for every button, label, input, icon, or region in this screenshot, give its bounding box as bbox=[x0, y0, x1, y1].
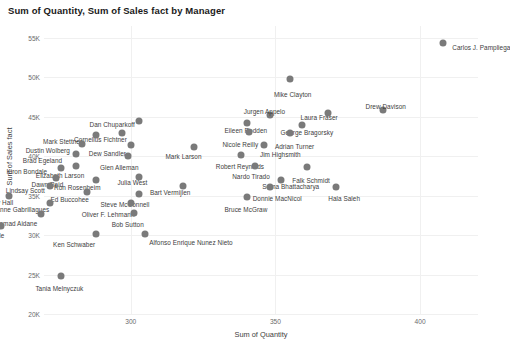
data-point[interactable] bbox=[130, 210, 137, 217]
data-point-label: Tania Melnyczuk bbox=[35, 286, 83, 292]
gridline-horizontal bbox=[44, 117, 478, 118]
x-axis-tick-label: 300 bbox=[125, 318, 136, 325]
data-point[interactable] bbox=[127, 142, 134, 149]
y-axis-tick-label: 30K bbox=[28, 232, 40, 239]
data-point[interactable] bbox=[58, 165, 65, 172]
data-point[interactable] bbox=[286, 75, 293, 82]
x-axis-title: Sum of Quantity bbox=[44, 330, 478, 339]
data-point-label: Glen Alleman bbox=[100, 165, 139, 171]
data-point[interactable] bbox=[93, 131, 100, 138]
data-point[interactable] bbox=[93, 176, 100, 183]
data-point-label: Steve McConnell bbox=[100, 202, 149, 208]
gridline-vertical bbox=[420, 26, 421, 314]
x-axis-tick-label: 400 bbox=[415, 318, 426, 325]
data-point[interactable] bbox=[440, 40, 447, 47]
y-axis-tick-label: 45K bbox=[28, 113, 40, 120]
data-point[interactable] bbox=[119, 129, 126, 136]
gridline-horizontal bbox=[44, 275, 478, 276]
gridline-horizontal bbox=[44, 38, 478, 39]
data-point-label: Ed Buccohee bbox=[50, 197, 89, 203]
data-point-label: Carlos J. Pampliega bbox=[452, 45, 510, 51]
data-point[interactable] bbox=[298, 122, 305, 129]
data-point-label: Jim Highsmith bbox=[260, 152, 301, 158]
data-point[interactable] bbox=[237, 151, 244, 158]
y-axis-tick-label: 25K bbox=[28, 271, 40, 278]
y-axis-tick-label: 55K bbox=[28, 34, 40, 41]
data-point-label: Julia West bbox=[117, 180, 147, 186]
data-point[interactable] bbox=[136, 118, 143, 125]
data-point[interactable] bbox=[304, 164, 311, 171]
gridline-horizontal bbox=[44, 314, 478, 315]
data-point[interactable] bbox=[191, 143, 198, 150]
data-point[interactable] bbox=[243, 120, 250, 127]
data-point[interactable] bbox=[72, 163, 79, 170]
data-point[interactable] bbox=[333, 183, 340, 190]
data-point[interactable] bbox=[286, 130, 293, 137]
plot-area: Carlos J. PampliegaMike ClaytonDrew Davi… bbox=[44, 26, 478, 314]
data-point[interactable] bbox=[246, 128, 253, 135]
data-point-label: Jurgen Appelo bbox=[244, 109, 286, 115]
gridline-horizontal bbox=[44, 77, 478, 78]
data-point-label: Dan Chuparkoff bbox=[89, 122, 134, 128]
data-point-label: Mark Larson bbox=[165, 154, 201, 160]
data-point-label: Samad Aidane bbox=[0, 221, 37, 227]
data-point-label: Dew Sandler bbox=[89, 151, 126, 157]
data-point[interactable] bbox=[252, 163, 259, 170]
data-point-label: Bob Sutton bbox=[112, 222, 144, 228]
data-point-label: Mike Clayton bbox=[274, 92, 312, 98]
data-point-label: Ken Schwaber bbox=[53, 242, 95, 248]
x-axis-tick-label: 350 bbox=[270, 318, 281, 325]
data-point-label: Kiron Bondale bbox=[6, 169, 47, 175]
gridline-horizontal bbox=[44, 235, 478, 236]
data-point-label: Alfonso Enrique Nunez Nieto bbox=[149, 240, 232, 246]
data-point-label: Brad Egeland bbox=[23, 158, 62, 164]
data-point-label: Mark Stettner bbox=[43, 139, 82, 145]
gridline-vertical bbox=[275, 26, 276, 314]
data-point[interactable] bbox=[72, 150, 79, 157]
data-point[interactable] bbox=[78, 141, 85, 148]
data-point[interactable] bbox=[38, 210, 45, 217]
data-point-label: Drew Davison bbox=[366, 104, 406, 110]
data-point[interactable] bbox=[260, 142, 267, 149]
data-point-label: Oliver F. Lehmann bbox=[82, 212, 135, 218]
data-point[interactable] bbox=[46, 183, 53, 190]
y-axis-tick-label: 20K bbox=[28, 311, 40, 318]
chart-title: Sum of Quantity, Sum of Sales fact by Ma… bbox=[8, 5, 225, 16]
data-point-label: Bruce McGraw bbox=[225, 207, 268, 213]
data-point[interactable] bbox=[124, 153, 131, 160]
y-axis-tick-label: 50K bbox=[28, 74, 40, 81]
data-point-label: Donnie MacNicol bbox=[253, 196, 302, 202]
data-point-label: Deanne Earle bbox=[0, 233, 4, 239]
data-point[interactable] bbox=[58, 273, 65, 280]
data-point[interactable] bbox=[266, 183, 273, 190]
data-point[interactable] bbox=[84, 189, 91, 196]
data-point-label: Ron Rosenheim bbox=[54, 185, 100, 191]
data-point-label: Bart Vermijlen bbox=[150, 190, 190, 196]
data-point-label: Adrian Turner bbox=[275, 144, 314, 150]
data-point[interactable] bbox=[136, 191, 143, 198]
x-axis-tick-labels: 300350400 bbox=[44, 318, 478, 330]
data-point[interactable] bbox=[93, 230, 100, 237]
data-point-label: Nardo Tirado bbox=[232, 174, 270, 180]
data-point[interactable] bbox=[127, 199, 134, 206]
data-point-label: Dustin Wolberg bbox=[26, 148, 70, 154]
data-point-label: Laura Fraser bbox=[301, 115, 338, 121]
data-point-label: Nicole Reilly bbox=[222, 142, 258, 148]
data-point-label: Hala Saleh bbox=[328, 196, 360, 202]
data-point[interactable] bbox=[243, 194, 250, 201]
data-point[interactable] bbox=[142, 230, 149, 237]
